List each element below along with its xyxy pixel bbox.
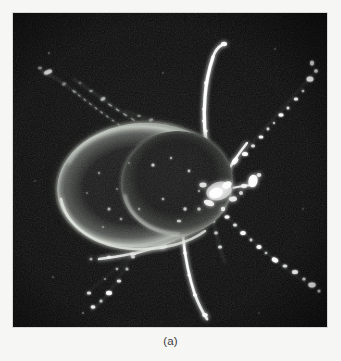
tick-darkfield-illustration bbox=[13, 13, 327, 327]
figure-caption: (a) bbox=[0, 334, 341, 348]
micrograph-image bbox=[13, 13, 327, 327]
figure-panel-a: (a) bbox=[0, 0, 341, 361]
